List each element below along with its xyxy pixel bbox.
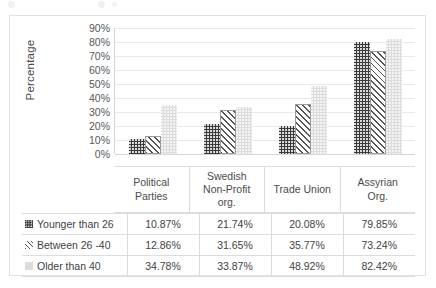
- table-cell-value: 31.65%: [199, 235, 271, 256]
- table-row: Older than 4034.78%33.87%48.92%82.42%: [22, 256, 415, 277]
- bar-group: [341, 28, 416, 154]
- light-gray-swatch: [25, 262, 33, 270]
- y-axis-tick: 60%: [89, 64, 110, 76]
- bar[interactable]: [236, 107, 252, 154]
- bar[interactable]: [204, 124, 220, 154]
- y-axis-tick: 80%: [89, 36, 110, 48]
- legend-label: Younger than 26: [37, 218, 114, 230]
- data-table: Younger than 2610.87%21.74%20.08%79.85%B…: [22, 213, 415, 277]
- bar[interactable]: [295, 104, 311, 154]
- category-label-band: PoliticalPartiesSwedishNon-Profitorg.Tra…: [114, 166, 415, 213]
- category-label: SwedishNon-Profitorg.: [190, 167, 266, 212]
- legend-entry[interactable]: Between 26 -40: [22, 235, 127, 256]
- bar[interactable]: [145, 136, 161, 154]
- bar-group: [190, 28, 265, 154]
- table-cell-value: 82.42%: [343, 256, 415, 277]
- y-axis-tick: 50%: [89, 78, 110, 90]
- table-cell-value: 33.87%: [199, 256, 271, 277]
- y-axis-tick: 10%: [89, 134, 110, 146]
- bar[interactable]: [129, 139, 145, 154]
- y-axis-tick: 30%: [89, 106, 110, 118]
- table-cell-value: 48.92%: [271, 256, 343, 277]
- legend-label: Between 26 -40: [37, 239, 111, 251]
- table-cell-value: 34.78%: [127, 256, 199, 277]
- y-axis-title: Percentage: [24, 22, 36, 118]
- dark-checkered-swatch: [25, 220, 33, 228]
- category-label: AssyrianOrg.: [341, 167, 416, 212]
- y-axis-tick: 20%: [89, 120, 110, 132]
- legend-entry[interactable]: Younger than 26: [22, 214, 127, 235]
- table-cell-value: 10.87%: [127, 214, 199, 235]
- y-axis-tick: 40%: [89, 92, 110, 104]
- table-row: Younger than 2610.87%21.74%20.08%79.85%: [22, 214, 415, 235]
- y-axis-tick: 90%: [89, 22, 110, 34]
- y-axis-tick-labels: 90%80%70%60%50%40%30%20%10%0%: [68, 28, 112, 154]
- table-cell-value: 73.24%: [343, 235, 415, 256]
- axis-baseline: [115, 154, 415, 155]
- bar[interactable]: [370, 51, 386, 154]
- table-cell-value: 79.85%: [343, 214, 415, 235]
- table-cell-value: 21.74%: [199, 214, 271, 235]
- diagonal-hatch-swatch: [25, 241, 33, 249]
- category-label: PoliticalParties: [114, 167, 190, 212]
- bar[interactable]: [220, 110, 236, 154]
- bar[interactable]: [386, 39, 402, 154]
- table-cell-value: 35.77%: [271, 235, 343, 256]
- bar[interactable]: [161, 105, 177, 154]
- legend-label: Older than 40: [37, 260, 101, 272]
- scan-artifact-top: [0, 0, 436, 12]
- bar[interactable]: [354, 42, 370, 154]
- chart-container: Percentage 90%80%70%60%50%40%30%20%10%0%…: [9, 15, 426, 276]
- table-row: Between 26 -4012.86%31.65%35.77%73.24%: [22, 235, 415, 256]
- data-table-body: Younger than 2610.87%21.74%20.08%79.85%B…: [22, 214, 415, 277]
- y-axis-tick: 0%: [95, 148, 110, 160]
- table-cell-value: 20.08%: [271, 214, 343, 235]
- bar[interactable]: [279, 126, 295, 154]
- category-label: Trade Union: [265, 167, 341, 212]
- plot-region: Percentage 90%80%70%60%50%40%30%20%10%0%: [10, 16, 427, 166]
- bar-group: [115, 28, 190, 154]
- bar[interactable]: [311, 86, 327, 154]
- table-cell-value: 12.86%: [127, 235, 199, 256]
- plot-area: [114, 28, 415, 154]
- y-axis-tick: 70%: [89, 50, 110, 62]
- bar-group: [266, 28, 341, 154]
- legend-entry[interactable]: Older than 40: [22, 256, 127, 277]
